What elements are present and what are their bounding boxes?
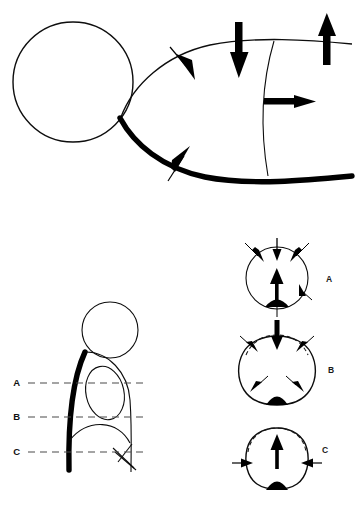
figure-root: A B C (0, 0, 360, 520)
section-c-label: C (322, 445, 328, 455)
section-b-label: B (328, 365, 334, 375)
level-label-c: C (13, 446, 20, 457)
biomechanical-diagram: A B C (0, 0, 360, 520)
canvas-background (0, 0, 360, 520)
section-a-label: A (326, 274, 332, 284)
level-label-a: A (13, 377, 20, 388)
level-label-b: B (13, 411, 20, 422)
